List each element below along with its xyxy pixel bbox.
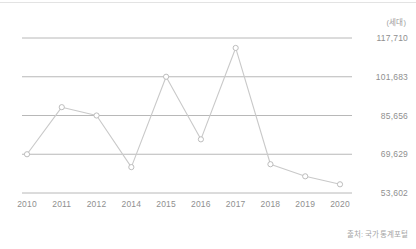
data-point-2017[interactable] [233,45,238,50]
y-tick-label-85656: 85,656 [381,111,408,121]
x-tick-label-2019: 2019 [295,199,315,209]
y-tick-label-53602: 53,602 [381,188,408,198]
data-point-2012[interactable] [94,113,99,118]
x-tick-label-2012: 2012 [87,199,107,209]
x-tick-label-2020: 2020 [330,199,350,209]
data-point-2018[interactable] [268,162,273,167]
data-line-series-1 [27,48,340,184]
data-point-2014[interactable] [129,165,134,170]
x-tick-label-2011: 2011 [52,199,71,209]
data-point-2016[interactable] [198,137,203,142]
x-tick-label-2010: 2010 [17,199,37,209]
gridlines-group [22,38,352,193]
x-tick-label-2017: 2017 [226,199,246,209]
source-note: 출처: 국가통계포털 [347,228,408,239]
y-tick-label-69629: 69,629 [381,149,408,159]
data-point-2015[interactable] [164,74,169,79]
x-tick-label-2015: 2015 [156,199,176,209]
data-point-2010[interactable] [24,152,29,157]
y-tick-label-101683: 101,683 [376,72,408,82]
x-tick-label-2018: 2018 [261,199,281,209]
x-tick-label-2016: 2016 [191,199,211,209]
line-chart: (세대) 117,710101,68385,65669,62953,602 20… [0,0,416,249]
x-tick-label-2014: 2014 [121,199,141,209]
y-tick-label-117710: 117,710 [377,33,409,43]
data-point-2011[interactable] [59,105,64,110]
data-point-2019[interactable] [303,174,308,179]
plot-area [0,0,416,249]
data-point-2020[interactable] [337,182,342,187]
data-point-markers-group [24,45,342,187]
